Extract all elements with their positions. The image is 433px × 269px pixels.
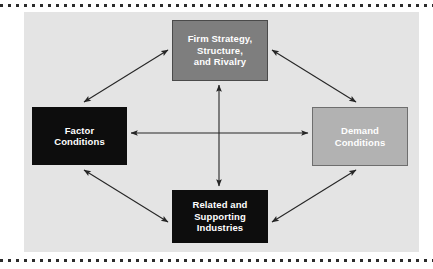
top-dotted-rule [0,4,433,7]
node-factor-label: Factor Conditions [51,125,108,148]
bottom-dotted-rule [0,259,433,262]
node-factor-conditions[interactable]: Factor Conditions [32,107,127,165]
diamond-model-figure: Firm Strategy, Structure, and Rivalry Fa… [0,0,433,269]
node-related-and-supporting-industries[interactable]: Related and Supporting Industries [172,190,268,243]
node-firm-strategy-structure-and-rivalry[interactable]: Firm Strategy, Structure, and Rivalry [172,20,268,81]
node-demand-conditions[interactable]: Demand Conditions [312,107,408,166]
node-demand-label: Demand Conditions [332,125,389,148]
node-related-label: Related and Supporting Industries [190,199,251,234]
node-firm-label: Firm Strategy, Structure, and Rivalry [185,33,256,68]
